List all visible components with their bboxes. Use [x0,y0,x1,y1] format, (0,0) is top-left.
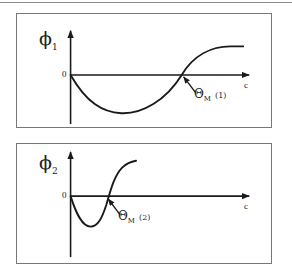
annotation-label-theta-m-1: ΘM(1) [194,87,226,103]
annotation-label-theta-m-2: ΘM(2) [118,209,150,225]
y-axis-label-phi1: ϕ1 [39,27,58,52]
y-axis-label-phi2: ϕ2 [39,151,58,176]
top-divider-rule [0,2,292,3]
figure-canvas: ϕ1 0 c ΘM(1) [0,0,292,277]
plot-panel-phi1: ϕ1 0 c ΘM(1) [16,13,272,128]
origin-label-phi2: 0 [62,190,67,200]
x-axis-label-phi2: c [244,201,248,211]
origin-label-phi1: 0 [62,69,67,79]
plot-panel-phi2: ϕ2 0 c ΘM(2) [16,143,272,264]
x-axis-label-phi1: c [244,80,248,90]
